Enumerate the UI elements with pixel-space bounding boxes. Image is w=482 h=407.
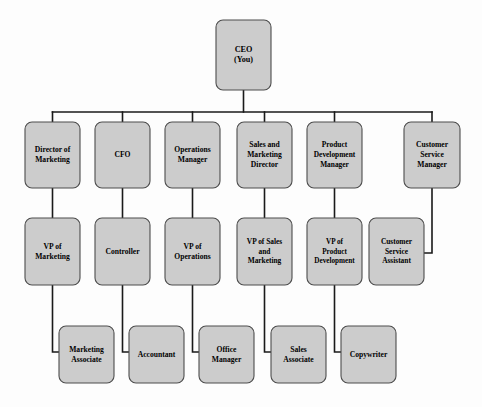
- node-label-copywriter: Copywriter: [350, 349, 388, 358]
- org-node-vp-of-sales-and-marketing[interactable]: VP of SalesandMarketing: [237, 218, 292, 285]
- org-node-office-manager[interactable]: OfficeManager: [199, 326, 254, 383]
- node-label-director-of-marketing: Director ofMarketing: [35, 145, 71, 164]
- node-label-controller: Controller: [105, 246, 140, 255]
- org-node-ceo[interactable]: CEO(You): [216, 20, 271, 90]
- org-node-vp-of-product-development[interactable]: VP ofProductDevelopment: [307, 218, 362, 285]
- org-node-sales-associate[interactable]: SalesAssociate: [271, 326, 326, 383]
- org-node-marketing-associate[interactable]: MarketingAssociate: [59, 326, 114, 383]
- node-label-ceo: CEO(You): [234, 45, 253, 65]
- org-node-customer-service-assistant[interactable]: CustomerServiceAssistant: [369, 218, 424, 285]
- org-node-director-of-marketing[interactable]: Director ofMarketing: [25, 122, 80, 188]
- node-label-accountant: Accountant: [138, 349, 176, 358]
- org-node-controller[interactable]: Controller: [95, 218, 150, 285]
- org-node-operations-manager[interactable]: OperationsManager: [165, 122, 220, 188]
- org-node-cfo[interactable]: CFO: [95, 122, 150, 188]
- org-chart-canvas: CEO(You)Director ofMarketingCFOOperation…: [0, 0, 482, 407]
- org-node-customer-service-manager[interactable]: CustomerServiceManager: [404, 122, 460, 188]
- org-node-product-development-manager[interactable]: ProductDevelopmentManager: [307, 122, 362, 188]
- node-label-sales-and-marketing-director: Sales andMarketingDirector: [247, 140, 282, 169]
- node-label-marketing-associate: MarketingAssociate: [69, 344, 104, 363]
- node-label-customer-service-manager: CustomerServiceManager: [416, 140, 449, 169]
- node-label-cfo: CFO: [114, 150, 130, 159]
- org-node-accountant[interactable]: Accountant: [129, 326, 184, 383]
- org-node-vp-of-operations[interactable]: VP ofOperations: [165, 218, 220, 285]
- org-chart-svg: CEO(You)Director ofMarketingCFOOperation…: [0, 0, 482, 407]
- org-node-copywriter[interactable]: Copywriter: [341, 326, 396, 383]
- org-node-vp-of-marketing[interactable]: VP ofMarketing: [25, 218, 80, 285]
- node-label-operations-manager: OperationsManager: [174, 145, 210, 164]
- org-node-sales-and-marketing-director[interactable]: Sales andMarketingDirector: [237, 122, 292, 188]
